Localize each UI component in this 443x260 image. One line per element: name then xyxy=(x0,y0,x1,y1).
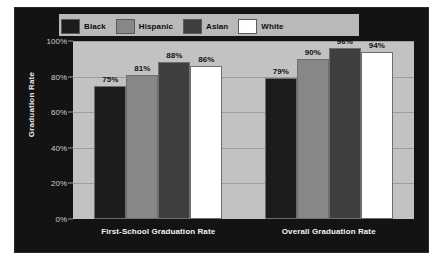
bar-group-bars: 79%90%96%94% xyxy=(244,41,415,219)
bar[interactable]: 79% xyxy=(265,78,297,219)
legend-swatch-white xyxy=(238,19,257,34)
bar-chart: Black Hispanic Asian White Graduation Ra… xyxy=(14,7,429,253)
legend-item-white[interactable]: White xyxy=(238,19,283,34)
bar-slot: 90% xyxy=(297,41,329,219)
bar-group-bars: 75%81%88%86% xyxy=(73,41,244,219)
bar[interactable]: 94% xyxy=(361,52,393,219)
bar-slot: 94% xyxy=(361,41,393,219)
bar-group: 79%90%96%94% xyxy=(244,41,415,219)
legend-label-hispanic: Hispanic xyxy=(139,22,173,31)
y-tick-label: 0% xyxy=(55,215,67,224)
legend-swatch-asian xyxy=(183,19,202,34)
bar-slot: 81% xyxy=(126,41,158,219)
y-tick-label: 100% xyxy=(47,37,67,46)
legend-swatch-hispanic xyxy=(116,19,135,34)
bar-value-label: 88% xyxy=(166,51,182,60)
bar[interactable]: 96% xyxy=(329,48,361,219)
x-axis-label: First-School Graduation Rate xyxy=(73,222,244,242)
bar-slot: 79% xyxy=(265,41,297,219)
legend-swatch-black xyxy=(61,19,80,34)
bar[interactable]: 90% xyxy=(297,59,329,219)
bar-slot: 96% xyxy=(329,41,361,219)
bar-slot: 88% xyxy=(158,41,190,219)
bar[interactable]: 75% xyxy=(94,86,126,220)
y-tick-label: 20% xyxy=(51,179,67,188)
legend-label-black: Black xyxy=(84,22,106,31)
bar-value-label: 75% xyxy=(102,75,118,84)
bar-value-label: 81% xyxy=(134,64,150,73)
legend-item-hispanic[interactable]: Hispanic xyxy=(116,19,173,34)
bar[interactable]: 86% xyxy=(190,66,222,219)
x-axis-labels: First-School Graduation RateOverall Grad… xyxy=(73,222,414,242)
bar-groups: 75%81%88%86%79%90%96%94% xyxy=(73,41,414,219)
y-tick-label: 60% xyxy=(51,108,67,117)
bar-group: 75%81%88%86% xyxy=(73,41,244,219)
bar-value-label: 79% xyxy=(273,67,289,76)
bar-value-label: 96% xyxy=(337,37,353,46)
y-axis-ticks: 100%80%60%40%20%0% xyxy=(29,41,73,219)
legend-item-asian[interactable]: Asian xyxy=(183,19,228,34)
legend-label-white: White xyxy=(261,22,283,31)
bar-slot: 86% xyxy=(190,41,222,219)
bar-value-label: 94% xyxy=(369,41,385,50)
bar-slot: 75% xyxy=(94,41,126,219)
bar[interactable]: 88% xyxy=(158,62,190,219)
legend-label-asian: Asian xyxy=(206,22,228,31)
y-tick-label: 80% xyxy=(51,72,67,81)
bar-value-label: 86% xyxy=(198,55,214,64)
legend-item-black[interactable]: Black xyxy=(61,19,106,34)
chart-legend: Black Hispanic Asian White xyxy=(61,17,284,35)
x-axis-label: Overall Graduation Rate xyxy=(244,222,415,242)
bar-value-label: 90% xyxy=(305,48,321,57)
y-tick-label: 40% xyxy=(51,143,67,152)
plot-area: 75%81%88%86%79%90%96%94% xyxy=(73,41,414,219)
bar[interactable]: 81% xyxy=(126,75,158,219)
